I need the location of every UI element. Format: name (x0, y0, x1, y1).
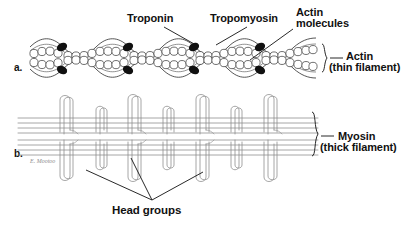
leader-lines-head-groups (86, 158, 203, 200)
bracket-myosin-filament (312, 112, 334, 156)
actin-molecule-beads (30, 46, 317, 71)
myosin-backbone-rods (18, 118, 318, 155)
leader-line-troponin (164, 27, 196, 45)
myosin-head-connectors (70, 130, 282, 144)
leader-line-tropomyosin (216, 27, 247, 45)
diagram-vector-layer (0, 0, 402, 226)
myosin-thick-filament (18, 95, 318, 182)
bracket-actin-filament (322, 44, 343, 72)
myosin-head-groups-lower (60, 140, 277, 182)
leader-line-head-left (86, 170, 152, 200)
figure-canvas: a. b. Troponin Tropomyosin Actin molecul… (0, 0, 402, 226)
leader-line-head-right (152, 172, 203, 200)
actin-thin-filament (30, 38, 317, 78)
